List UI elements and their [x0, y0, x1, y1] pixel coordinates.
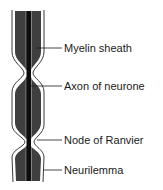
- label-axon-of-neurone: Axon of neurone: [64, 80, 145, 92]
- axon-illustration: [0, 0, 163, 190]
- axon-core: [27, 11, 32, 181]
- label-myelin-sheath: Myelin sheath: [64, 42, 132, 54]
- label-node-of-ranvier: Node of Ranvier: [64, 134, 144, 146]
- label-neurilemma: Neurilemma: [64, 164, 123, 176]
- myelinated-axon-diagram: Myelin sheath Axon of neurone Node of Ra…: [0, 0, 163, 190]
